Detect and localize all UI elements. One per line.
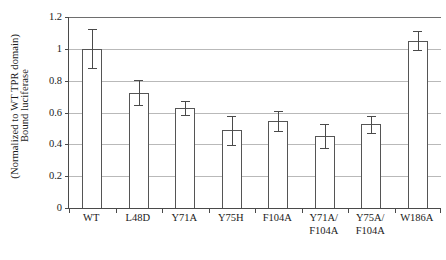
error-bar-cap-upper [320, 124, 329, 125]
error-bar-cap-upper [134, 80, 143, 81]
bar [408, 41, 428, 208]
x-axis-category-label: W186A [394, 212, 441, 225]
error-bar [232, 116, 233, 145]
error-bar [371, 116, 372, 133]
bar-series [69, 17, 441, 208]
error-bar-cap-upper [181, 101, 190, 102]
error-bar-cap-lower [134, 105, 143, 106]
x-axis-category-label: WT [68, 212, 115, 225]
y-axis-title-line1: Bound luciferase [20, 69, 31, 142]
y-axis-tick-label: 0 [57, 203, 62, 214]
error-bar-cap-upper [227, 116, 236, 117]
bar [268, 121, 288, 208]
bar-chart-figure: (Normalized to WT TPR domain) Bound luci… [0, 0, 446, 260]
plot-area [68, 17, 441, 209]
error-bar [92, 29, 93, 68]
bar [175, 108, 195, 208]
error-bar-cap-lower [274, 131, 283, 132]
y-axis-tick-label: 0.8 [49, 75, 62, 86]
error-bar-cap-upper [88, 29, 97, 30]
x-axis-category-label: F104A [254, 212, 301, 225]
y-axis-tick-label: 0.4 [49, 139, 62, 150]
bar [361, 124, 381, 208]
error-bar-cap-upper [274, 111, 283, 112]
y-axis-tick-label: 1 [57, 44, 62, 55]
x-axis-category-labels: WTL48DY71AY75HF104AY71A/ F104AY75A/ F104… [68, 212, 440, 256]
y-axis-title: (Normalized to WT TPR domain) Bound luci… [2, 0, 38, 212]
error-bar-cap-lower [413, 50, 422, 51]
error-bar [139, 80, 140, 105]
x-axis-category-label: L48D [115, 212, 162, 225]
error-bar-cap-lower [320, 148, 329, 149]
x-axis-category-label: Y75H [208, 212, 255, 225]
bar [129, 93, 149, 208]
y-axis-tick-label: 1.2 [49, 12, 62, 23]
y-axis-tick-label: 0.2 [49, 171, 62, 182]
y-axis-tick-labels: 00.20.40.60.811.2 [36, 12, 65, 210]
error-bar-cap-upper [367, 116, 376, 117]
bar [82, 49, 102, 208]
error-bar [418, 31, 419, 50]
error-bar-cap-lower [181, 115, 190, 116]
error-bar [278, 111, 279, 131]
x-axis-category-label: Y71A [161, 212, 208, 225]
y-axis-tick-label: 0.6 [49, 107, 62, 118]
error-bar-cap-lower [227, 145, 236, 146]
x-axis-category-label: Y75A/ F104A [347, 212, 394, 237]
error-bar [185, 101, 186, 115]
x-axis-tick-mark [440, 208, 441, 213]
error-bar-cap-lower [367, 133, 376, 134]
error-bar [325, 124, 326, 148]
x-axis-category-label: Y71A/ F104A [301, 212, 348, 237]
error-bar-cap-upper [413, 31, 422, 32]
error-bar-cap-lower [88, 68, 97, 69]
